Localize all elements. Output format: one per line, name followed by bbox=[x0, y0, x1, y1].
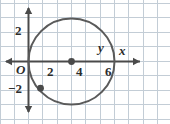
y-tick-label-neg2: −2 bbox=[8, 82, 22, 95]
origin-label: O bbox=[16, 63, 25, 76]
x-tick-label-2: 2 bbox=[47, 65, 54, 78]
y-axis-arrow-up bbox=[25, 7, 32, 14]
y-axis-name-label: y bbox=[98, 41, 104, 54]
x-tick-label-4: 4 bbox=[76, 65, 83, 78]
x-axis-name-label: x bbox=[119, 44, 126, 57]
x-tick-label-6: 6 bbox=[105, 65, 112, 78]
circle-center-point bbox=[68, 58, 75, 65]
y-tick-label-2: 2 bbox=[15, 24, 22, 37]
x-axis-arrow-right bbox=[133, 58, 140, 65]
graph-canvas bbox=[0, 0, 170, 124]
x-axis-arrow-left bbox=[5, 58, 12, 65]
point-on-circle bbox=[37, 85, 44, 92]
coordinate-plane-figure: y x O 2 −2 2 4 6 bbox=[0, 0, 170, 124]
y-axis-arrow-down bbox=[25, 106, 32, 113]
